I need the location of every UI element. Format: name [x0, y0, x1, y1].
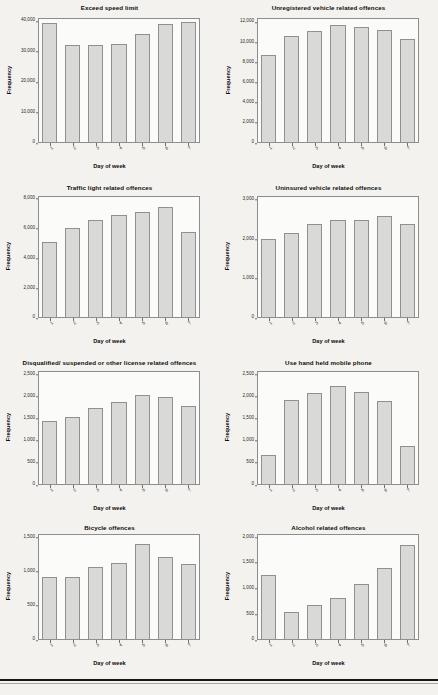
bar — [88, 408, 103, 485]
bar-slot — [84, 371, 107, 485]
x-tick-label: 2 — [72, 145, 77, 151]
x-tick-label: 1 — [49, 642, 54, 648]
y-tick-label: 2,500 — [24, 372, 39, 377]
bar-slot — [107, 18, 130, 143]
y-axis: 02,0004,0006,0008,00010,00012,000 — [217, 18, 257, 143]
x-tick-label: 3 — [314, 145, 319, 151]
x-tick-label: 1 — [268, 145, 273, 151]
y-tick-label: 1,500 — [243, 416, 258, 421]
plot-area — [38, 534, 200, 640]
bar-series — [257, 534, 419, 640]
x-tick-label: 3 — [95, 145, 100, 151]
x-tick-label: 5 — [360, 320, 365, 326]
bar-slot — [84, 18, 107, 143]
plot-area — [257, 18, 419, 143]
y-axis-label: Frequency — [224, 17, 230, 142]
bar — [307, 31, 322, 143]
y-axis: 01,0002,0003,000 — [217, 196, 257, 318]
y-axis-label: Frequency — [224, 533, 230, 639]
x-tick-label: 5 — [360, 642, 365, 648]
y-tick-label: 2,000 — [24, 394, 39, 399]
bar-slot — [350, 18, 373, 143]
bar-slot — [38, 371, 61, 485]
bar — [330, 386, 345, 485]
plot-area — [38, 196, 200, 318]
x-tick-label: 1 — [49, 145, 54, 151]
bar — [400, 39, 415, 143]
bar-series — [257, 18, 419, 143]
bar-slot — [154, 371, 177, 485]
x-axis-label: Day of week — [219, 660, 438, 666]
x-tick-label: 4 — [337, 487, 342, 493]
x-tick: 1 — [38, 318, 61, 334]
bar-series — [257, 371, 419, 485]
chart-title: Disqualified/ suspended or other license… — [0, 359, 219, 367]
x-tick-label: 4 — [337, 320, 342, 326]
chart-panel: Bicycle offencesFrequency05001,0001,5001… — [0, 520, 219, 672]
x-tick: 7 — [177, 485, 200, 501]
bar-slot — [177, 534, 200, 640]
x-tick-label: 7 — [187, 320, 192, 326]
bar-slot — [131, 371, 154, 485]
x-tick-label: 2 — [291, 642, 296, 648]
bar — [135, 212, 150, 318]
bar-slot — [303, 18, 326, 143]
bar-slot — [131, 534, 154, 640]
bar — [111, 563, 126, 640]
bar-slot — [131, 18, 154, 143]
x-tick: 6 — [373, 640, 396, 656]
x-tick-label: 1 — [268, 487, 273, 493]
bar-slot — [107, 196, 130, 318]
bar-slot — [257, 371, 280, 485]
x-tick-label: 5 — [360, 487, 365, 493]
x-axis-label: Day of week — [219, 505, 438, 511]
bar — [111, 44, 126, 143]
y-axis-label: Frequency — [5, 533, 11, 639]
x-tick: 2 — [280, 485, 303, 501]
x-tick-label: 4 — [118, 320, 123, 326]
bar — [400, 545, 415, 640]
y-tick-label: 1,000 — [243, 586, 258, 591]
x-tick: 4 — [326, 640, 349, 656]
y-axis-label: Frequency — [224, 195, 230, 317]
x-tick-label: 3 — [314, 320, 319, 326]
bar-slot — [38, 196, 61, 318]
bar — [65, 577, 80, 640]
x-tick-label: 6 — [164, 642, 169, 648]
y-tick-label: 6,000 — [24, 226, 39, 231]
bar — [135, 395, 150, 485]
x-tick: 3 — [84, 485, 107, 501]
x-tick: 3 — [303, 318, 326, 334]
bar — [330, 25, 345, 143]
bar-slot — [154, 534, 177, 640]
bar-slot — [280, 534, 303, 640]
x-tick-label: 7 — [406, 487, 411, 493]
bar — [354, 27, 369, 143]
x-tick: 4 — [326, 318, 349, 334]
page-bottom-rule — [0, 679, 438, 681]
y-tick-label: 1,000 — [243, 276, 258, 281]
x-tick: 6 — [154, 143, 177, 159]
x-tick-label: 2 — [291, 145, 296, 151]
chart-title: Traffic light related offences — [0, 184, 219, 192]
bar — [65, 417, 80, 485]
plot-area — [38, 371, 200, 485]
bar-slot — [303, 371, 326, 485]
bar-slot — [61, 18, 84, 143]
bar-slot — [154, 18, 177, 143]
x-axis: 1234567 — [257, 318, 419, 334]
x-tick-label: 5 — [141, 145, 146, 151]
x-tick-label: 7 — [187, 642, 192, 648]
bar — [307, 605, 322, 641]
bar — [158, 207, 173, 318]
x-tick-label: 6 — [164, 487, 169, 493]
x-tick-label: 1 — [49, 487, 54, 493]
bar-slot — [396, 534, 419, 640]
x-tick-label: 7 — [406, 145, 411, 151]
plot-area — [38, 18, 200, 143]
chart-title: Bicycle offences — [0, 524, 219, 532]
chart-panel: Unregistered vehicle related offencesFre… — [219, 0, 438, 180]
x-tick: 1 — [257, 485, 280, 501]
x-tick-label: 4 — [118, 145, 123, 151]
bar-series — [38, 534, 200, 640]
